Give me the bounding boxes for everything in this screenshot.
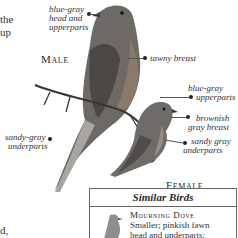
- callout-line: [89, 14, 101, 15]
- callout-dot: [183, 141, 187, 145]
- mourning-dove-thumbnail: [96, 211, 124, 238]
- callout-line: [170, 117, 186, 118]
- label-male-underparts: sandy-gray underparts: [5, 133, 48, 151]
- callout-line: [128, 58, 144, 59]
- label-female-underparts: sandy gray underparts: [183, 137, 231, 155]
- similar-bird-name: Mourning Dove: [130, 210, 210, 220]
- male-heading: Male: [41, 53, 69, 65]
- label-female-breast: brownish gray breast: [188, 114, 229, 132]
- similar-bird-desc: head and underparts;: [130, 230, 210, 238]
- callout-line: [160, 97, 192, 98]
- text-fragment: up: [0, 27, 11, 38]
- label-tawny-breast: tawny breast: [150, 54, 196, 63]
- label-male-head: blue-gray head and upperparts: [49, 5, 89, 32]
- text-fragment: the: [0, 14, 13, 25]
- similar-birds-box: Similar Birds Mourning Dove Smaller; pin…: [89, 188, 237, 238]
- text-fragment: d,: [0, 225, 8, 236]
- female-pigeon-illustration: [100, 95, 190, 185]
- similar-birds-title: Similar Birds: [90, 189, 236, 207]
- similar-bird-desc: Smaller; pinkish fawn: [130, 220, 210, 230]
- callout-dot: [143, 56, 147, 60]
- callout-dot: [48, 137, 52, 141]
- callout-dot: [186, 115, 190, 119]
- callout-dot: [189, 95, 193, 99]
- label-female-upperparts: blue-gray upperparts: [188, 84, 236, 102]
